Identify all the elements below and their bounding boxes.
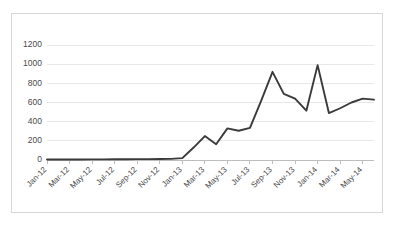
x-axis-tick-label: Mar-12 <box>47 165 72 190</box>
x-axis-tick-label: Nov-13 <box>272 165 297 190</box>
data-series-line <box>47 65 374 159</box>
x-axis-tick-label: Mar-13 <box>182 165 207 190</box>
x-axis-tick-label: Jan-13 <box>160 165 184 189</box>
line-chart: 020040060080010001200Jan-12Mar-12May-12J… <box>12 14 382 212</box>
x-axis-tick-label: May-14 <box>339 165 365 191</box>
plot-area: 020040060080010001200Jan-12Mar-12May-12J… <box>12 14 382 212</box>
x-axis-tick-label: Mar-14 <box>317 165 342 190</box>
y-axis-tick-label: 1000 <box>23 58 42 68</box>
x-axis-tick-label: May-13 <box>204 165 230 191</box>
y-axis-tick-label: 200 <box>28 135 42 145</box>
y-axis-tick-label: 800 <box>28 78 42 88</box>
chart-container: 020040060080010001200Jan-12Mar-12May-12J… <box>11 13 383 213</box>
y-axis-tick-label: 0 <box>37 154 42 164</box>
x-axis-tick-label: Sep-12 <box>114 165 139 190</box>
x-axis-tick-label: May-12 <box>68 165 94 191</box>
x-axis-tick-label: Jan-14 <box>295 165 319 189</box>
y-axis-tick-label: 600 <box>28 97 42 107</box>
x-axis-tick-label: Nov-12 <box>137 165 162 190</box>
y-axis-tick-label: 400 <box>28 116 42 126</box>
x-axis-tick-label: Jan-12 <box>25 165 49 189</box>
x-axis-tick-label: Sep-13 <box>249 165 274 190</box>
y-axis-tick-label: 1200 <box>23 39 42 49</box>
